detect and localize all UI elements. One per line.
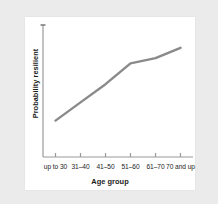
y-axis-title: Probability resilient (31, 41, 40, 127)
figure-card: Probability resilient Age group up to 30… (25, 17, 195, 190)
x-tick-label-1: 31–40 (71, 163, 89, 170)
x-axis-title: Age group (25, 177, 195, 186)
x-tick-label-5: 70 and up (166, 163, 195, 170)
chart-plot-area: Probability resilient Age group up to 30… (25, 17, 195, 190)
axes-group (41, 25, 194, 157)
x-tick-label-3: 51–60 (121, 163, 139, 170)
x-tick-label-0: up to 30 (44, 163, 67, 170)
x-tick-label-2: 41–50 (96, 163, 114, 170)
data-series-line (56, 48, 181, 121)
x-tick-label-4: 61–70 (146, 163, 164, 170)
